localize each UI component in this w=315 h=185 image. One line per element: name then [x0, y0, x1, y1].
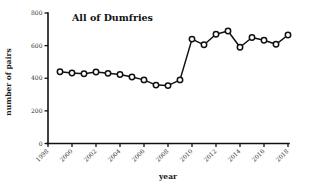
chart-screenshot: 0200400600800 19982000200220042006200820…	[0, 0, 315, 185]
data-point	[105, 71, 110, 76]
data-point	[141, 77, 146, 82]
y-tick-label: 200	[31, 107, 43, 114]
x-tick-label: 2006	[130, 147, 146, 163]
data-point	[57, 69, 62, 74]
x-tick-label: 2014	[226, 147, 242, 163]
y-tick-label: 600	[31, 42, 43, 49]
y-axis-ticks: 0200400600800	[31, 9, 48, 147]
x-tick-label: 2002	[82, 147, 98, 163]
data-point	[69, 70, 74, 75]
data-point	[189, 36, 194, 41]
x-axis-title: year	[158, 172, 178, 181]
y-axis-title: number of pairs	[4, 48, 13, 115]
data-point	[177, 77, 182, 82]
x-tick-label: 2016	[250, 147, 266, 163]
data-point	[93, 69, 98, 74]
x-tick-label: 2018	[274, 147, 290, 163]
x-tick-label: 2010	[178, 147, 194, 163]
data-point	[285, 32, 290, 37]
chart-title: All of Dumfries	[71, 12, 153, 23]
data-point	[225, 28, 230, 33]
data-point	[81, 71, 86, 76]
x-tick-label: 2012	[202, 147, 218, 163]
data-point	[117, 72, 122, 77]
data-point	[237, 45, 242, 50]
x-axis-ticks: 1998200020022004200620082010201220142016…	[34, 144, 290, 164]
y-tick-label: 800	[31, 9, 43, 16]
line-chart: 0200400600800 19982000200220042006200820…	[0, 0, 315, 185]
x-tick-label: 2008	[154, 147, 170, 163]
x-tick-label: 2000	[58, 147, 74, 163]
y-tick-label: 400	[31, 74, 43, 81]
data-point	[213, 32, 218, 37]
x-tick-label: 2004	[106, 147, 122, 163]
data-point	[165, 83, 170, 88]
data-point	[261, 38, 266, 43]
data-point	[249, 35, 254, 40]
y-tick-label: 0	[39, 140, 43, 147]
x-tick-label: 1998	[34, 147, 50, 163]
data-markers	[57, 28, 290, 88]
data-point	[201, 42, 206, 47]
data-point	[273, 42, 278, 47]
data-point	[153, 82, 158, 87]
data-point	[129, 74, 134, 79]
